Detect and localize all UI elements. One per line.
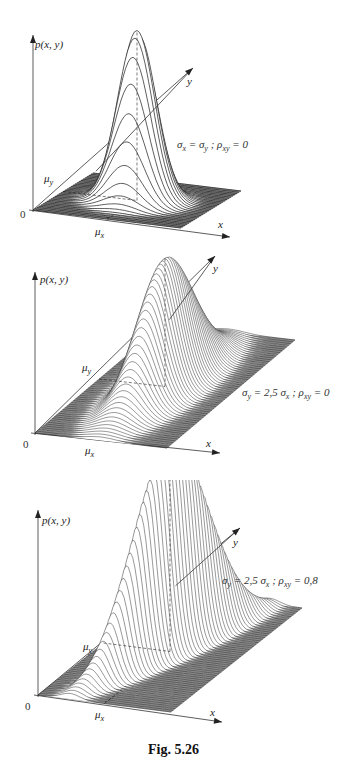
x-axis-label: x (209, 706, 215, 718)
x-axis-arrow-icon (212, 449, 220, 455)
surface-plot-1: p(x, y)xy0μxμyσx = σy ; ρxy = 0 (0, 0, 347, 250)
panel-1: p(x, y)xy0μxμyσx = σy ; ρxy = 0 (0, 0, 347, 250)
parameter-annotation: σy = 2,5 σx ; ρxy = 0 (242, 386, 330, 401)
x-axis-label: x (205, 437, 211, 449)
mu-y-label: μy (81, 361, 92, 376)
y-axis-label: y (186, 75, 192, 87)
z-axis-label: p(x, y) (34, 38, 63, 51)
mu-y-label: μy (82, 640, 93, 655)
z-axis-arrow-icon (32, 272, 38, 280)
z-axis-arrow-icon (35, 510, 41, 518)
panel-2: p(x, y)xy0μxμyσy = 2,5 σx ; ρxy = 0 (0, 250, 347, 485)
panel-3: p(x, y)xy0μxμyσy = 2,5 σx ; ρxy = 0,8 (0, 480, 347, 745)
origin-label: 0 (23, 438, 29, 450)
surface-plot-3: p(x, y)xy0μxμyσy = 2,5 σx ; ρxy = 0,8 (0, 480, 347, 745)
surface-plot-2: p(x, y)xy0μxμyσy = 2,5 σx ; ρxy = 0 (0, 250, 347, 485)
mu-x-label: μx (84, 444, 95, 459)
x-axis-label: x (217, 218, 223, 230)
mu-x-label: μx (94, 225, 105, 240)
parameter-annotation: σx = σy ; ρxy = 0 (177, 138, 248, 153)
origin-label: 0 (20, 208, 26, 220)
figure-caption: Fig. 5.26 (0, 742, 347, 758)
z-axis-label: p(x, y) (39, 273, 68, 286)
mu-x-label: μx (94, 708, 105, 723)
y-axis-label: y (212, 262, 218, 274)
z-axis-label: p(x, y) (41, 514, 70, 527)
origin-label: 0 (25, 700, 31, 712)
mu-y-label: μy (43, 172, 54, 187)
x-axis-arrow-icon (222, 233, 230, 239)
x-axis-arrow-icon (214, 718, 222, 724)
y-axis-label: y (232, 536, 238, 548)
